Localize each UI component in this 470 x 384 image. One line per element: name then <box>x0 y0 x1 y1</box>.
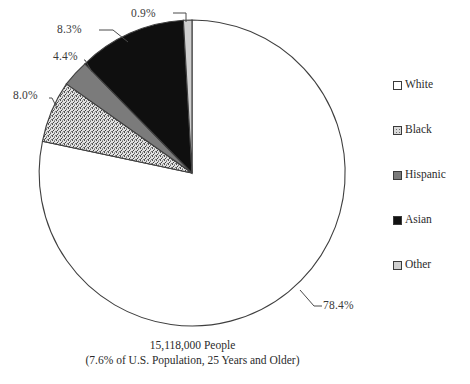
caption-line-1: 15,118,000 People <box>0 338 385 353</box>
legend-label-other: Other <box>405 258 431 271</box>
legend-item-white[interactable]: White <box>393 78 470 123</box>
pie-chart-figure: 0.9% 8.3% 4.4% 8.0% 78.4% 15,118,000 Peo… <box>0 0 470 384</box>
legend-swatch-icon-other <box>393 261 402 270</box>
chart-caption: 15,118,000 People (7.6% of U.S. Populati… <box>0 338 385 368</box>
legend-swatch-icon-asian <box>393 216 402 225</box>
chart-legend: White Black Hispanic Asian Other <box>393 78 470 303</box>
slice-label-hispanic: 4.4% <box>53 50 78 62</box>
legend-label-black: Black <box>405 123 432 136</box>
slice-label-other: 0.9% <box>131 7 156 19</box>
legend-swatch-icon-hispanic <box>393 171 402 180</box>
legend-label-hispanic: Hispanic <box>405 168 446 181</box>
slice-label-white: 78.4% <box>323 299 354 311</box>
legend-label-white: White <box>405 78 433 91</box>
slice-label-asian: 8.3% <box>57 23 82 35</box>
slice-label-black: 8.0% <box>13 89 38 101</box>
legend-item-hispanic[interactable]: Hispanic <box>393 168 470 213</box>
legend-item-black[interactable]: Black <box>393 123 470 168</box>
legend-item-asian[interactable]: Asian <box>393 213 470 258</box>
legend-label-asian: Asian <box>405 213 432 226</box>
legend-swatch-icon-white <box>393 81 402 90</box>
legend-item-other[interactable]: Other <box>393 258 470 303</box>
leader-line-white <box>300 290 322 306</box>
caption-line-2: (7.6% of U.S. Population, 25 Years and O… <box>0 353 385 368</box>
legend-swatch-icon-black <box>393 126 402 135</box>
